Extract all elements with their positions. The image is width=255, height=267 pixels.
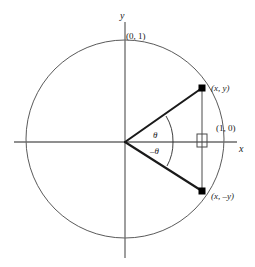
x-axis-label: x — [239, 144, 243, 154]
angle-label-theta: θ — [153, 131, 157, 140]
ray-negative-theta — [125, 142, 202, 191]
y-axis-label: y — [120, 11, 124, 21]
angle-label-negative-theta: –θ — [150, 147, 159, 156]
unit-circle-figure: y x (0, 1) (x, y) (1, 0) (x, –y) θ –θ — [0, 0, 255, 267]
point-marker-x-negy — [199, 188, 206, 195]
point-label-x-negy: (x, –y) — [211, 192, 234, 201]
arc-theta — [166, 116, 173, 142]
ray-theta — [125, 88, 202, 142]
point-label-xy: (x, y) — [211, 84, 229, 93]
arc-negative-theta — [167, 142, 173, 166]
point-label-top: (0, 1) — [126, 32, 146, 41]
point-marker-xy — [199, 85, 206, 92]
point-label-one-zero: (1, 0) — [216, 124, 236, 133]
